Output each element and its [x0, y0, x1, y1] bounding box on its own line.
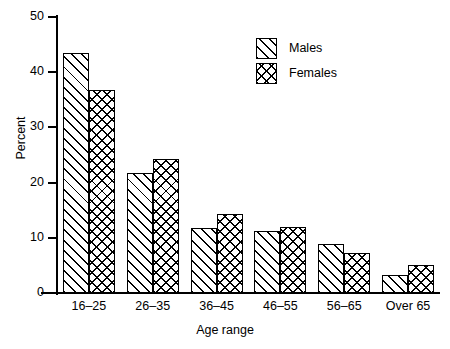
legend-label-males: Males	[289, 41, 322, 55]
bar-females-2	[217, 214, 243, 293]
bar-males-0	[63, 53, 89, 293]
y-tick-mark	[48, 126, 56, 128]
y-tick-label: 0	[4, 286, 44, 299]
y-tick-mark	[48, 292, 56, 294]
bar-males-2	[191, 228, 217, 293]
y-axis-title: Percent	[14, 88, 28, 188]
x-axis-title: Age range	[0, 323, 450, 337]
y-tick-label: 40	[4, 65, 44, 78]
legend-swatch-males-icon	[256, 38, 277, 59]
bar-females-5	[408, 265, 434, 293]
bar-males-1	[127, 173, 153, 293]
bar-females-1	[153, 159, 179, 293]
y-tick-mark	[48, 16, 56, 18]
bar-females-3	[280, 227, 306, 293]
plot-area	[57, 17, 440, 293]
y-tick-mark	[48, 237, 56, 239]
bar-females-4	[344, 253, 370, 293]
y-tick-label: 10	[4, 231, 44, 244]
bar-chart-figure: 01020304050 Percent 16–2526–3536–4546–55…	[0, 0, 450, 349]
bar-males-5	[382, 275, 408, 293]
bar-females-0	[89, 90, 115, 293]
bar-males-3	[254, 231, 280, 293]
legend-label-females: Females	[289, 66, 337, 80]
y-tick-mark	[48, 182, 56, 184]
legend-swatch-females-icon	[256, 63, 277, 84]
y-tick-label: 50	[4, 10, 44, 23]
x-tick-label: Over 65	[363, 299, 450, 313]
bar-males-4	[318, 244, 344, 293]
y-tick-mark	[48, 71, 56, 73]
